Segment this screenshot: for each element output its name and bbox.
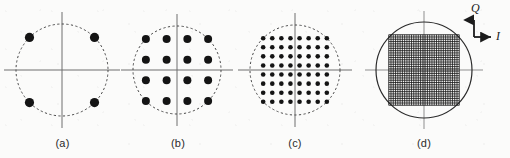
constellation-point [315, 54, 320, 59]
iq-axis-legend: Q I [452, 0, 510, 52]
constellation-point [142, 35, 150, 43]
constellation-point [325, 90, 330, 95]
constellation-point [204, 97, 212, 105]
constellation-point [270, 72, 275, 77]
constellation-point [325, 100, 330, 105]
constellation-panel-b: (b) [118, 0, 238, 158]
constellation-point [204, 35, 212, 43]
panel-label-d: (d) [360, 136, 488, 150]
constellation-point [261, 81, 266, 86]
constellation-point [288, 54, 293, 59]
constellation-plot-b [118, 0, 238, 135]
constellation-point [297, 100, 302, 105]
q-axis-label: Q [471, 2, 480, 14]
constellation-point [288, 90, 293, 95]
constellation-point [315, 45, 320, 50]
constellation-point [279, 81, 284, 86]
constellation-point [288, 100, 293, 105]
constellation-point [288, 45, 293, 50]
panel-label-b: (b) [118, 136, 238, 150]
constellation-point [204, 56, 212, 64]
constellation-point [288, 36, 293, 41]
constellation-point [297, 90, 302, 95]
constellation-point [297, 63, 302, 68]
constellation-point [325, 63, 330, 68]
constellation-point [315, 100, 320, 105]
constellation-point [183, 97, 191, 105]
constellation-point [270, 63, 275, 68]
constellation-figure: (a) (b) (c) (d) Q I [0, 0, 510, 158]
constellation-point [261, 100, 266, 105]
constellation-point [288, 81, 293, 86]
constellation-point [163, 76, 171, 84]
constellation-point [261, 72, 266, 77]
constellation-point [25, 98, 34, 107]
constellation-point [183, 35, 191, 43]
constellation-panel-c: (c) [235, 0, 355, 158]
constellation-point [306, 100, 311, 105]
constellation-point [163, 35, 171, 43]
constellation-point [270, 36, 275, 41]
panel-label-c: (c) [235, 136, 355, 150]
constellation-point [270, 54, 275, 59]
constellation-point [325, 45, 330, 50]
constellation-point [142, 76, 150, 84]
constellation-point [270, 45, 275, 50]
constellation-point [288, 63, 293, 68]
constellation-panel-a: (a) [0, 0, 125, 158]
constellation-point [270, 100, 275, 105]
constellation-point [204, 76, 212, 84]
constellation-point [279, 45, 284, 50]
constellation-point [163, 56, 171, 64]
constellation-point [183, 56, 191, 64]
constellation-point [142, 97, 150, 105]
constellation-point [325, 81, 330, 86]
constellation-point [315, 81, 320, 86]
constellation-point [306, 72, 311, 77]
constellation-point [25, 33, 34, 42]
constellation-point [297, 54, 302, 59]
constellation-point [306, 45, 311, 50]
constellation-point [279, 36, 284, 41]
constellation-point [306, 81, 311, 86]
constellation-point [183, 76, 191, 84]
constellation-point [261, 54, 266, 59]
constellation-point [306, 90, 311, 95]
constellation-point [90, 98, 99, 107]
constellation-point [325, 36, 330, 41]
constellation-point [261, 45, 266, 50]
constellation-point [90, 33, 99, 42]
constellation-point [142, 56, 150, 64]
constellation-point [297, 72, 302, 77]
constellation-point [261, 90, 266, 95]
constellation-point [297, 81, 302, 86]
constellation-point [163, 97, 171, 105]
constellation-point [306, 54, 311, 59]
constellation-point [279, 63, 284, 68]
iq-axis-arrows-icon [452, 0, 510, 52]
constellation-point [315, 90, 320, 95]
constellation-point [306, 63, 311, 68]
constellation-point [325, 72, 330, 77]
constellation-point [261, 36, 266, 41]
constellation-point [297, 45, 302, 50]
constellation-point [315, 36, 320, 41]
i-axis-label: I [496, 30, 500, 42]
constellation-point [279, 72, 284, 77]
constellation-point [288, 72, 293, 77]
constellation-plot-a [0, 0, 125, 135]
constellation-plot-c [235, 0, 355, 135]
constellation-point [279, 100, 284, 105]
constellation-point [270, 81, 275, 86]
constellation-point [315, 63, 320, 68]
constellation-point [270, 90, 275, 95]
constellation-point [297, 36, 302, 41]
constellation-point [306, 36, 311, 41]
constellation-point [279, 54, 284, 59]
constellation-point [279, 90, 284, 95]
constellation-point [325, 54, 330, 59]
panel-label-a: (a) [0, 136, 125, 150]
constellation-point [315, 72, 320, 77]
constellation-point [261, 63, 266, 68]
